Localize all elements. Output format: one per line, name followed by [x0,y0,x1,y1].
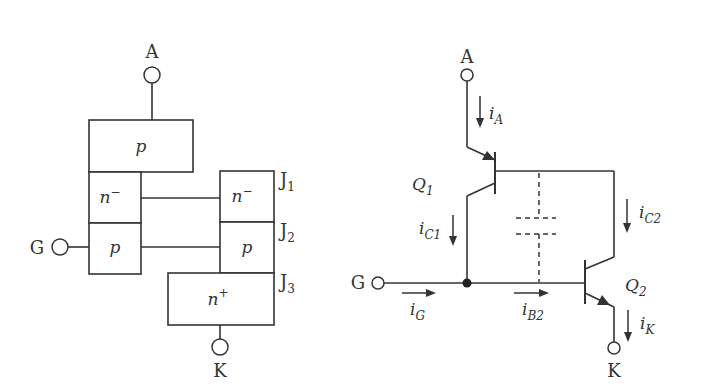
arrow-right-icon [539,289,549,297]
q1-label: Q1 [412,174,434,198]
current-ib2-label: iB2 [522,299,544,323]
circuit-anode-label: A [460,46,475,67]
cathode-label: K [213,360,227,381]
cathode-terminal: K [212,325,228,381]
q1-collector [467,183,495,196]
current-arrow-ig [402,289,436,297]
junction-node-dot [463,279,472,288]
cathode-terminal-circle [212,339,228,355]
circuit-anode-terminal [461,69,473,81]
gate-terminal: G [30,237,89,258]
current-ic1-label: iC1 [419,218,441,242]
junction-j3-label: J3 [278,271,295,296]
current-arrow-ik [624,310,632,342]
junction-capacitance-dashed [516,173,556,282]
current-ig-label: iG [410,299,425,323]
circuit-cathode-terminal [608,342,620,354]
region-right-p-label: p [242,237,253,257]
gate-label: G [30,237,44,258]
anode-label: A [145,41,160,62]
arrow-down-icon [476,118,484,128]
junction-j1-label: J1 [278,169,295,194]
thyristor-figure: A p n− p G n− p n+ [0,0,703,386]
current-ic2-label: iC2 [639,202,661,226]
current-ik-label: iK [640,313,655,337]
region-left-p-label: p [110,237,121,257]
gate-terminal-circle [52,239,68,255]
junction-j2-label: J2 [278,220,295,245]
transistor-q2-npn [585,257,614,307]
anode-terminal: A [144,41,160,120]
arrow-down-icon [624,332,632,342]
current-arrow-ib2 [514,289,549,297]
anode-terminal-circle [144,67,160,83]
pnpn-structure-diagram: A p n− p G n− p n+ [30,41,295,381]
region-top-p-label: p [136,136,147,156]
circuit-gate-terminal [372,277,384,289]
current-ia-label: iA [489,103,503,127]
arrow-down-icon [623,223,631,233]
two-transistor-equivalent-circuit: A iA Q1 iC1 i [351,46,661,381]
transistor-q1-pnp [467,147,495,196]
current-arrow-ic1 [449,215,457,246]
current-arrow-ia [476,96,484,128]
q2-collector [585,257,614,269]
arrow-right-icon [426,289,436,297]
circuit-gate-label: G [351,272,365,293]
arrow-down-icon [449,236,457,246]
q2-label: Q2 [625,275,647,299]
circuit-cathode-label: K [607,360,621,381]
current-arrow-ic2 [623,199,631,233]
